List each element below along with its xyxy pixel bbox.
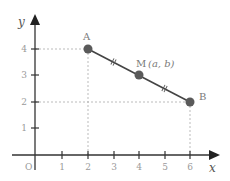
coordinate-diagram: 1 2 3 4 5 6 1 2 3 4 O x y A M (a, b) B [0,0,230,181]
x-tick-label: 2 [85,162,91,172]
point-m-coords: (a, b) [148,58,175,69]
x-axis-label: x [209,161,216,175]
y-tick-labels: 1 2 3 4 [21,44,27,133]
origin-label: O [25,162,32,172]
point-a [84,45,93,54]
x-tick-label: 4 [136,162,142,172]
point-b-label: B [199,91,206,102]
point-m-label: M [136,58,146,69]
point-a-label: A [82,31,91,42]
x-tick-label: 6 [187,162,193,172]
x-axis [12,150,220,160]
y-axis [30,14,40,170]
x-tick-label: 1 [59,162,65,172]
y-tick-label: 3 [21,70,27,80]
x-tick-labels: 1 2 3 4 5 6 [59,162,193,172]
x-tick-label: 5 [162,162,168,172]
x-axis-arrow-icon [209,150,220,160]
y-tick-label: 4 [21,44,27,54]
y-axis-label: y [17,15,25,29]
x-tick-label: 3 [111,162,117,172]
point-b [186,98,195,107]
y-axis-arrow-icon [30,14,40,25]
y-tick-label: 2 [21,97,27,107]
point-m [135,71,144,80]
y-tick-label: 1 [21,123,27,133]
